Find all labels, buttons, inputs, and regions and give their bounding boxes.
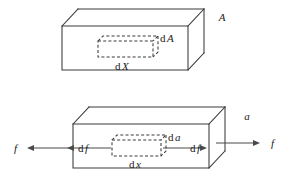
force-label-left-outer: f	[14, 142, 19, 154]
lower-element-area-label-d: d	[168, 131, 174, 143]
force-arrow-left-outer-head	[27, 145, 34, 151]
force-arrow-left-outer	[27, 145, 73, 151]
lower-bar-top-face	[73, 107, 225, 124]
force-label-left-inner-d: d	[78, 142, 84, 154]
figure-svg: A d A d X a d a d x f d f d f f	[0, 0, 287, 180]
force-label-right-outer: f	[271, 137, 276, 149]
upper-element-area-label: d A	[160, 32, 174, 44]
figure-root: A d A d X a d a d x f d f d f f	[0, 0, 287, 180]
upper-element-area-label-d: d	[160, 32, 166, 44]
lower-bar-area-label: a	[244, 110, 250, 122]
lower-bar-front-face	[73, 124, 209, 168]
upper-bar-top-face	[62, 9, 204, 26]
upper-element-area-label-var: A	[166, 32, 174, 44]
force-label-right-inner-d: d	[190, 142, 196, 154]
lower-element-area-label-var: a	[175, 131, 181, 143]
force-arrow-left-inner-head	[67, 145, 74, 151]
upper-element-length-label-d: d	[115, 60, 121, 72]
upper-bar-group	[62, 9, 204, 70]
lower-element-length-label-var: x	[135, 158, 141, 170]
upper-bar-area-label: A	[218, 11, 226, 23]
lower-element-area-label: d a	[168, 131, 181, 143]
upper-element-length-label: d X	[115, 60, 130, 72]
upper-element-length-label-var: X	[121, 60, 130, 72]
lower-bar-group	[73, 107, 225, 168]
force-arrow-right-outer-head	[253, 140, 260, 146]
lower-element-length-label-d: d	[129, 158, 135, 170]
